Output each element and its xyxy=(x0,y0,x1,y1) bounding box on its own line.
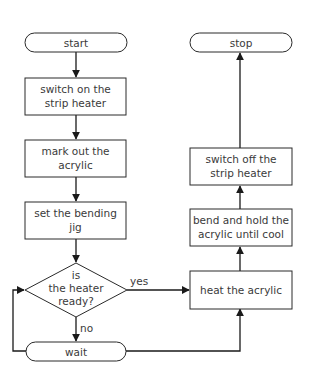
set-jig-label-line2: jig xyxy=(68,221,82,233)
switch-off-label-line2: strip heater xyxy=(210,167,272,179)
start-terminal: start xyxy=(25,33,127,52)
stop-label: stop xyxy=(230,37,253,49)
switch-on-process: switch on the strip heater xyxy=(25,78,126,115)
bend-hold-process: bend and hold the acrylic until cool xyxy=(190,209,292,246)
set-jig-process: set the bending jig xyxy=(25,202,126,239)
bend-label-line2: acrylic until cool xyxy=(198,228,284,240)
decision-label-line2: the heater xyxy=(48,282,104,294)
mark-out-label-line2: acrylic xyxy=(58,159,93,171)
arrow-wait-loop-to-decision xyxy=(13,290,27,351)
heat-label: heat the acrylic xyxy=(200,284,282,296)
switch-off-label-line1: switch off the xyxy=(205,153,276,165)
flowchart-canvas: start switch on the strip heater mark ou… xyxy=(0,0,311,381)
wait-terminal: wait xyxy=(26,342,126,361)
mark-out-label-line1: mark out the xyxy=(41,145,109,157)
arrow-wait-to-heat xyxy=(126,309,240,351)
wait-label: wait xyxy=(65,346,87,358)
switch-off-process: switch off the strip heater xyxy=(190,148,292,185)
heater-ready-decision: is the heater ready? xyxy=(25,263,127,317)
switch-on-label-line2: strip heater xyxy=(45,97,107,109)
yes-edge-label: yes xyxy=(130,275,148,287)
start-label: start xyxy=(64,37,88,49)
switch-on-label-line1: switch on the xyxy=(40,83,111,95)
mark-out-process: mark out the acrylic xyxy=(25,140,126,177)
no-edge-label: no xyxy=(80,322,93,334)
decision-label-line3: ready? xyxy=(58,295,93,307)
decision-label-line1: is xyxy=(72,269,80,281)
bend-label-line1: bend and hold the xyxy=(193,214,289,226)
heat-process: heat the acrylic xyxy=(190,271,292,309)
set-jig-label-line1: set the bending xyxy=(34,207,117,219)
stop-terminal: stop xyxy=(190,33,292,52)
